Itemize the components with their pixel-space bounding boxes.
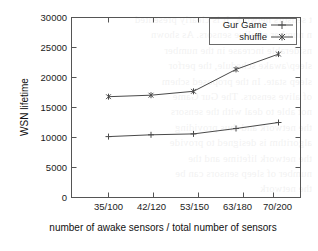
x-tick-label: 70/200 — [263, 201, 292, 212]
x-tick-label: 42/120 — [137, 201, 166, 212]
x-tick-label: 63/180 — [223, 201, 252, 212]
data-point-marker — [234, 66, 239, 72]
y-tick-label: 5000 — [46, 162, 67, 173]
legend-marker-plus — [278, 21, 286, 29]
data-point-marker — [148, 132, 154, 138]
y-tick-label: 15000 — [41, 102, 67, 113]
y-tick-label: 30000 — [41, 12, 67, 23]
wsn-lifetime-line-chart: 0 5000 10000 15000 20000 25000 30000 WSN… — [0, 0, 318, 251]
data-point-marker — [276, 120, 282, 126]
y-axis-title: WSN lifetime — [19, 78, 30, 136]
data-point-marker — [191, 131, 197, 137]
chart-figure: t sensors network. It is clearly present… — [0, 0, 318, 251]
x-axis-tick-labels: 35/100 42/120 53/150 63/180 70/200 — [94, 201, 292, 212]
y-tick-label: 0 — [62, 192, 67, 203]
legend-label-shuffle: shuffle — [239, 31, 267, 42]
legend-label-gur-game: Gur Game — [223, 19, 267, 30]
y-tick-label: 20000 — [41, 72, 67, 83]
y-axis-tick-labels: 0 5000 10000 15000 20000 25000 30000 — [41, 12, 67, 203]
x-tick-label: 53/150 — [180, 201, 209, 212]
data-series-layer — [106, 51, 282, 140]
series-gur-game — [106, 120, 282, 140]
y-tick-label: 25000 — [41, 42, 67, 53]
y-tick-label: 10000 — [41, 132, 67, 143]
chart-legend: Gur Game shuffle — [210, 19, 297, 45]
data-point-marker — [276, 51, 281, 57]
data-point-marker — [233, 126, 239, 132]
series-shuffle — [106, 51, 281, 100]
x-axis-title: number of awake sensors / total number o… — [49, 222, 276, 233]
data-point-marker — [106, 134, 112, 140]
x-tick-label: 35/100 — [94, 201, 123, 212]
